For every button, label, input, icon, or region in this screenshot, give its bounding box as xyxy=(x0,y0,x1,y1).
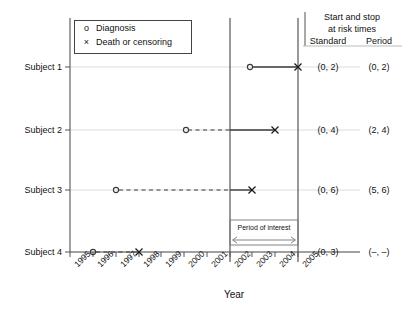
standard-value-subject-4: (0, 3) xyxy=(317,247,338,257)
standard-value-subject-1: (0, 2) xyxy=(317,62,338,72)
period-value-subject-2: (2, 4) xyxy=(368,125,389,135)
annotation-header-line2: at risk times xyxy=(328,24,376,34)
chart-canvas xyxy=(0,0,408,313)
subject-label-4: Subject 4 xyxy=(0,247,62,257)
standard-value-subject-3: (0, 6) xyxy=(317,185,338,195)
subject-label-2: Subject 2 xyxy=(0,125,62,135)
annotation-column-period: Period xyxy=(366,36,392,46)
period-value-subject-4: (–, –) xyxy=(368,247,389,257)
subject-label-1: Subject 1 xyxy=(0,62,62,72)
legend-item-diagnosis: o Diagnosis xyxy=(75,21,191,35)
legend-label-diagnosis: Diagnosis xyxy=(96,23,136,33)
series-subject-2 xyxy=(183,127,278,134)
period-of-interest-label: Period of interest xyxy=(238,224,291,231)
period-value-subject-3: (5, 6) xyxy=(368,185,389,195)
diagnosis-circle-icon: o xyxy=(80,24,93,33)
subject-label-3: Subject 3 xyxy=(0,185,62,195)
legend-label-death: Death or censoring xyxy=(96,37,172,47)
series-subject-1 xyxy=(247,64,301,71)
legend-item-death: × Death or censoring xyxy=(75,35,191,49)
legend: o Diagnosis × Death or censoring xyxy=(74,20,192,54)
death-cross-icon: × xyxy=(80,38,93,47)
y-axis-ticks xyxy=(65,67,70,252)
annotation-header-line1: Start and stop xyxy=(324,12,380,22)
standard-value-subject-2: (0, 4) xyxy=(317,125,338,135)
survival-timeline-chart: o Diagnosis × Death or censoring Subject… xyxy=(0,0,408,313)
annotation-column-standard: Standard xyxy=(310,36,347,46)
x-axis-title: Year xyxy=(224,289,244,300)
period-value-subject-1: (0, 2) xyxy=(368,62,389,72)
